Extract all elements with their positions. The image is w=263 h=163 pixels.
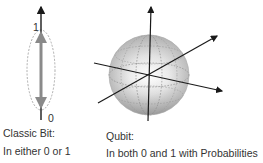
classic-bit-diagram xyxy=(27,7,55,120)
bloch-sphere-diagram xyxy=(94,7,222,121)
qubit-description: In both 0 and 1 with Probabilities xyxy=(106,147,258,159)
bit-label-zero: 0 xyxy=(48,112,54,124)
classic-bit-description: In either 0 or 1 xyxy=(3,145,71,157)
qubit-title: Qubit: xyxy=(106,130,134,142)
bit-label-one: 1 xyxy=(33,21,39,33)
classic-bit-title: Classic Bit: xyxy=(3,127,55,139)
